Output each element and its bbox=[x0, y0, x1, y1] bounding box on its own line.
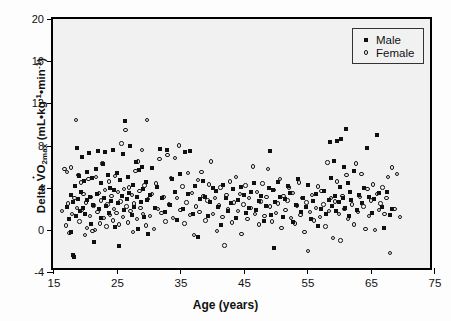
data-point-female bbox=[130, 193, 134, 197]
data-point-female bbox=[148, 214, 152, 218]
data-point-female bbox=[217, 203, 221, 207]
data-point-male bbox=[262, 219, 266, 223]
data-point-female bbox=[287, 185, 291, 189]
data-point-male bbox=[272, 246, 276, 250]
data-point-female bbox=[367, 214, 371, 218]
data-point-female bbox=[230, 220, 234, 224]
data-point-female bbox=[346, 217, 350, 221]
data-point-female bbox=[138, 206, 142, 210]
data-point-male bbox=[188, 149, 192, 153]
x-axis-tick: 45 bbox=[244, 268, 245, 274]
y-axis-label-o: O bbox=[35, 165, 47, 174]
data-point-female bbox=[255, 190, 259, 194]
data-point-male bbox=[342, 165, 346, 169]
plot-area: -404812162015253545556575 Male Female bbox=[51, 17, 432, 270]
y-axis-unit-mid: •min bbox=[35, 69, 47, 94]
data-point-female bbox=[342, 207, 346, 211]
data-point-female bbox=[113, 174, 117, 178]
data-point-male bbox=[75, 146, 79, 150]
data-point-female bbox=[95, 210, 99, 214]
data-point-female bbox=[340, 194, 344, 198]
data-point-male bbox=[311, 199, 315, 203]
x-axis-tick-label: 55 bbox=[302, 277, 315, 289]
data-point-male bbox=[120, 194, 124, 198]
data-point-male bbox=[219, 223, 223, 227]
data-point-female bbox=[356, 210, 360, 214]
data-point-female bbox=[318, 215, 322, 219]
data-point-male bbox=[234, 216, 238, 220]
scatter-plot-figure: Delta VO2max (mL•kg-1•min-1) -4048121620… bbox=[0, 0, 451, 321]
x-axis-tick: 35 bbox=[180, 268, 181, 274]
data-point-female bbox=[333, 199, 337, 203]
data-point-female bbox=[331, 236, 335, 240]
data-point-male bbox=[83, 212, 87, 216]
data-point-male bbox=[328, 140, 332, 144]
data-point-female bbox=[186, 171, 190, 175]
x-axis-tick-label: 25 bbox=[111, 277, 124, 289]
data-point-female bbox=[272, 188, 276, 192]
x-axis-tick: 25 bbox=[117, 268, 118, 274]
data-point-female bbox=[238, 192, 242, 196]
data-point-female bbox=[378, 201, 382, 205]
data-point-female bbox=[369, 198, 373, 202]
data-point-female bbox=[99, 198, 103, 202]
data-point-male bbox=[96, 149, 100, 153]
data-point-female bbox=[338, 238, 342, 242]
data-point-male bbox=[214, 189, 218, 193]
open-circle-icon bbox=[359, 50, 373, 54]
data-point-female bbox=[236, 209, 240, 213]
data-point-female bbox=[215, 229, 219, 233]
data-point-male bbox=[338, 185, 342, 189]
data-point-female bbox=[302, 230, 306, 234]
y-axis-tick-label: 16 bbox=[32, 55, 44, 67]
data-point-female bbox=[241, 202, 245, 206]
y-axis-tick-label: 12 bbox=[32, 97, 44, 109]
data-point-male bbox=[123, 119, 127, 123]
data-point-female bbox=[69, 165, 73, 169]
data-point-female bbox=[184, 200, 188, 204]
data-point-female bbox=[150, 192, 154, 196]
data-point-male bbox=[236, 198, 240, 202]
data-point-male bbox=[344, 127, 348, 131]
data-point-female bbox=[104, 224, 108, 228]
data-point-male bbox=[346, 181, 350, 185]
data-point-male bbox=[106, 173, 110, 177]
data-point-male bbox=[140, 165, 144, 169]
data-point-male bbox=[131, 183, 135, 187]
data-point-male bbox=[111, 148, 115, 152]
data-point-male bbox=[87, 151, 91, 155]
data-point-male bbox=[231, 187, 235, 191]
data-point-female bbox=[118, 199, 122, 203]
data-point-female bbox=[293, 221, 297, 225]
data-point-female bbox=[111, 218, 115, 222]
data-point-female bbox=[79, 180, 83, 184]
data-point-female bbox=[180, 184, 184, 188]
data-point-male bbox=[99, 181, 103, 185]
data-point-female bbox=[392, 207, 396, 211]
data-point-male bbox=[330, 204, 334, 208]
data-point-female bbox=[116, 190, 120, 194]
data-point-male bbox=[249, 190, 253, 194]
x-axis-tick-label: 75 bbox=[429, 277, 442, 289]
data-point-male bbox=[117, 244, 121, 248]
data-point-female bbox=[93, 228, 97, 232]
legend-label-female: Female bbox=[376, 47, 414, 59]
data-point-male bbox=[89, 222, 93, 226]
data-point-female bbox=[306, 249, 310, 253]
data-point-female bbox=[117, 222, 121, 226]
data-point-female bbox=[86, 177, 90, 181]
data-point-female bbox=[91, 203, 95, 207]
data-point-male bbox=[337, 200, 341, 204]
data-point-male bbox=[150, 166, 154, 170]
y-axis-tick: 0 bbox=[47, 230, 53, 231]
data-point-male bbox=[121, 152, 125, 156]
data-point-female bbox=[213, 196, 217, 200]
data-point-female bbox=[327, 209, 331, 213]
data-point-female bbox=[257, 222, 261, 226]
data-point-female bbox=[84, 200, 88, 204]
data-point-male bbox=[269, 213, 273, 217]
data-point-female bbox=[337, 212, 341, 216]
x-axis-tick-label: 45 bbox=[238, 277, 251, 289]
data-point-female bbox=[251, 164, 255, 168]
data-point-female bbox=[377, 208, 381, 212]
